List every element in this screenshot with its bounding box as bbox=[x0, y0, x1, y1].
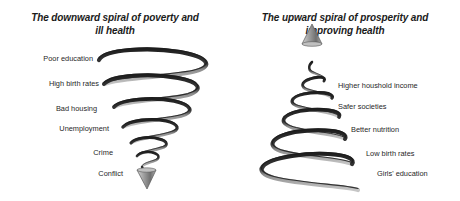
label-better-nutrition: Better nutrition bbox=[351, 125, 399, 134]
label-safer-societies: Safer societies bbox=[338, 102, 386, 111]
label-high-birth-rates: High birth rates bbox=[49, 79, 99, 88]
label-low-birth-rates: Low birth rates bbox=[366, 149, 414, 158]
upward-arrowhead-icon bbox=[302, 24, 322, 46]
label-bad-housing: Bad housing bbox=[56, 104, 97, 113]
label-unemployment: Unemployment bbox=[59, 124, 109, 133]
label-higher-household-income: Higher houshold income bbox=[338, 81, 418, 90]
label-conflict: Conflict bbox=[98, 169, 123, 178]
downward-arrowhead-icon bbox=[137, 168, 156, 189]
downward-coil-group bbox=[99, 48, 206, 172]
label-crime: Crime bbox=[93, 148, 113, 157]
label-poor-education: Poor education bbox=[43, 54, 93, 63]
downward-spiral-panel: The downward spiral of poverty and ill h… bbox=[0, 0, 230, 201]
label-girls-education: Girls' education bbox=[377, 169, 428, 178]
upward-spiral-panel: The upward spiral of prosperity and impr… bbox=[230, 0, 460, 201]
upward-coil-group bbox=[262, 56, 358, 190]
